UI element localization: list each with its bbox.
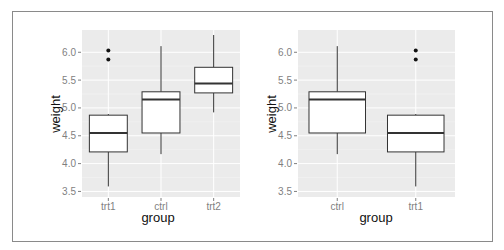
box-iqr: [309, 92, 366, 133]
y-tick-label: 5.0: [278, 102, 292, 113]
y-tick-label: 5.5: [278, 75, 292, 86]
y-tick-label: 3.5: [278, 186, 292, 197]
y-tick-label: 3.5: [62, 186, 76, 197]
left-y-axis-title: weight: [48, 95, 63, 134]
y-tick-label: 4.0: [278, 158, 292, 169]
y-tick-label: 4.0: [62, 158, 76, 169]
y-tick-label: 5.0: [62, 102, 76, 113]
x-tick-label: ctrl: [331, 201, 344, 212]
box-iqr: [142, 92, 180, 133]
right-boxplot-panel: 3.54.04.55.05.56.0ctrltrt1: [278, 30, 455, 212]
y-tick-label: 5.5: [62, 75, 76, 86]
x-tick-label: trt2: [206, 201, 221, 212]
y-tick-label: 6.0: [62, 47, 76, 58]
left-x-axis-title: group: [141, 210, 174, 225]
outlier-point: [106, 49, 110, 53]
outlier-point: [414, 49, 418, 53]
right-y-axis-title: weight: [264, 95, 279, 134]
outlier-point: [414, 58, 418, 62]
boxplot-figure: 3.54.04.55.05.56.0trt1ctrltrt2 3.54.04.5…: [0, 0, 504, 250]
y-tick-label: 4.5: [278, 130, 292, 141]
right-x-axis-title: group: [359, 210, 392, 225]
y-tick-label: 6.0: [278, 47, 292, 58]
y-tick-label: 4.5: [62, 130, 76, 141]
x-tick-label: trt1: [409, 201, 424, 212]
outlier-point: [106, 58, 110, 62]
box-iqr: [195, 67, 233, 93]
x-tick-label: trt1: [101, 201, 116, 212]
left-boxplot-panel: 3.54.04.55.05.56.0trt1ctrltrt2: [62, 30, 240, 212]
